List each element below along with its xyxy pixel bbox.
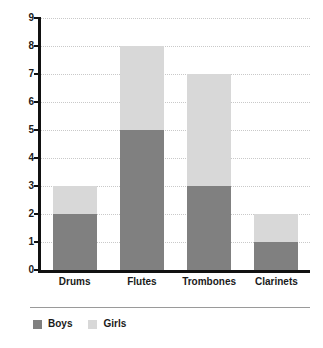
- y-axis-tick-labels: 0123456789: [18, 18, 34, 270]
- y-axis-tick-mark: [34, 185, 39, 187]
- x-axis-line: [38, 270, 310, 273]
- bars-container: [41, 18, 310, 270]
- bar-group[interactable]: [187, 74, 231, 270]
- y-axis-tick-mark: [34, 129, 39, 131]
- x-axis-tick-label: Flutes: [127, 276, 156, 288]
- bar-segment-boys[interactable]: [53, 214, 97, 270]
- y-axis-tick-mark: [34, 17, 39, 19]
- bar-segment-girls[interactable]: [254, 214, 298, 242]
- stacked-bar-chart: 0123456789 DrumsFlutesTrombonesClarinets…: [0, 0, 323, 348]
- bar-group[interactable]: [120, 46, 164, 270]
- chart-legend: BoysGirls: [33, 319, 126, 329]
- x-axis-tick-label: Trombones: [182, 276, 236, 288]
- legend-swatch-icon: [33, 320, 42, 329]
- legend-label: Girls: [103, 319, 126, 329]
- x-axis-tick-label: Drums: [59, 276, 91, 288]
- legend-label: Boys: [48, 319, 72, 329]
- y-axis-tick-mark: [34, 269, 39, 271]
- y-axis-tick-mark: [34, 101, 39, 103]
- y-axis-tick-mark: [34, 157, 39, 159]
- legend-swatch-icon: [88, 320, 97, 329]
- y-axis-tick-mark: [34, 45, 39, 47]
- bar-group[interactable]: [53, 186, 97, 270]
- y-axis-tick-mark: [34, 213, 39, 215]
- bar-segment-boys[interactable]: [187, 186, 231, 270]
- x-axis-category-labels: DrumsFlutesTrombonesClarinets: [41, 276, 310, 292]
- bar-group[interactable]: [254, 214, 298, 270]
- bar-segment-boys[interactable]: [120, 130, 164, 270]
- bar-segment-girls[interactable]: [53, 186, 97, 214]
- y-axis-tick-mark: [34, 241, 39, 243]
- legend-separator: [30, 307, 310, 308]
- legend-item-girls[interactable]: Girls: [88, 319, 126, 329]
- legend-item-boys[interactable]: Boys: [33, 319, 72, 329]
- bar-segment-boys[interactable]: [254, 242, 298, 270]
- plot-area: 0123456789 DrumsFlutesTrombonesClarinets: [0, 0, 323, 300]
- bar-segment-girls[interactable]: [120, 46, 164, 130]
- x-axis-tick-label: Clarinets: [255, 276, 298, 288]
- y-axis-tick-mark: [34, 73, 39, 75]
- bar-segment-girls[interactable]: [187, 74, 231, 186]
